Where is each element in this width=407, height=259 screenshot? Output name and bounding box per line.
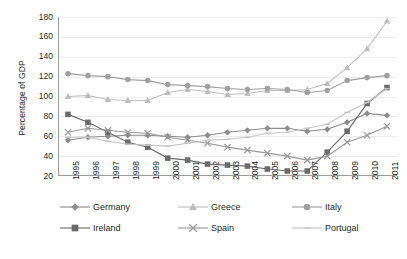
legend-item-greece[interactable]: Greece: [176, 200, 241, 214]
legend-marker-circle-icon: [290, 200, 324, 214]
legend-marker-triangle-icon: [176, 200, 210, 214]
legend-marker-diamond-icon: [58, 200, 92, 214]
chart-container: Percentage of GDP 2040608010012014016018…: [0, 0, 407, 259]
legend-label: Germany: [93, 202, 130, 212]
legend-label: Spain: [211, 223, 234, 233]
legend-label: Italy: [325, 202, 342, 212]
legend-marker-cross-icon: [176, 221, 210, 235]
legend-marker-line-icon: [290, 221, 324, 235]
legend-label: Portugal: [325, 223, 359, 233]
legend-item-ireland[interactable]: Ireland: [58, 221, 121, 235]
chart-legend: GermanyGreeceItalyIrelandSpainPortugal: [58, 200, 403, 248]
legend-item-germany[interactable]: Germany: [58, 200, 130, 214]
legend-label: Ireland: [93, 223, 121, 233]
legend-marker-square-icon: [58, 221, 92, 235]
legend-label: Greece: [211, 202, 241, 212]
legend-item-italy[interactable]: Italy: [290, 200, 342, 214]
legend-item-portugal[interactable]: Portugal: [290, 221, 359, 235]
legend-item-spain[interactable]: Spain: [176, 221, 234, 235]
